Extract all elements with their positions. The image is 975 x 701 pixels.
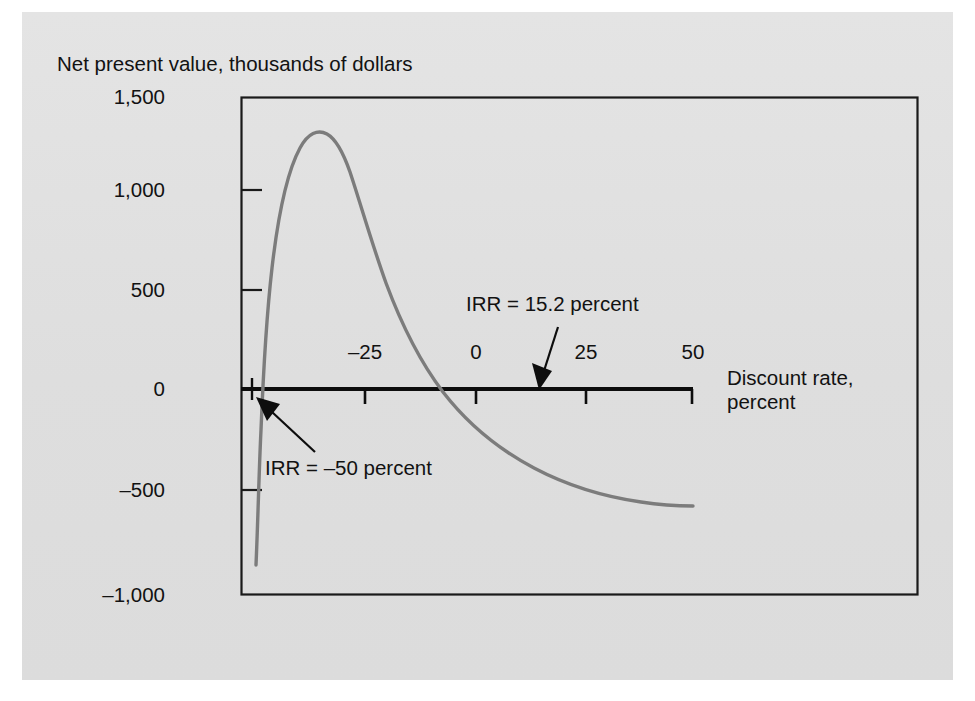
figure-container: Net present value, thousands of dollars … bbox=[0, 0, 975, 701]
plot-graphics bbox=[0, 0, 975, 701]
annotation-arrow-irr-positive bbox=[532, 327, 558, 390]
annotation-arrow-irr-negative bbox=[256, 397, 315, 452]
npv-profile-chart: Net present value, thousands of dollars … bbox=[0, 0, 975, 701]
plot-frame bbox=[242, 98, 918, 595]
npv-curve bbox=[256, 132, 693, 565]
x-axis-ticks bbox=[365, 389, 692, 404]
